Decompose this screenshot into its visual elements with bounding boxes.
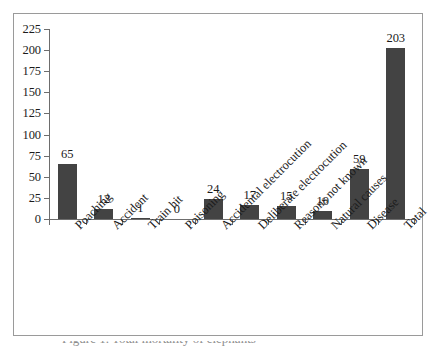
bar-value-label: 65 — [61, 148, 73, 161]
y-axis-tick-label: 175 — [23, 65, 41, 78]
y-axis-tick — [44, 177, 49, 178]
x-axis-category-label: Train hit — [146, 223, 155, 232]
y-axis-tick — [44, 135, 49, 136]
y-axis-line — [49, 29, 50, 220]
y-axis-tick — [44, 71, 49, 72]
x-axis-category-label: Poisoning — [183, 223, 192, 232]
figure-frame: 0255075100125150175200225 65121024171510… — [13, 13, 423, 336]
y-axis-tick — [44, 156, 49, 157]
x-axis-category-label: Accidental electrocution — [219, 223, 228, 232]
bar — [386, 48, 405, 219]
y-axis-tick-label: 225 — [23, 23, 41, 36]
y-axis-tick — [44, 198, 49, 199]
x-axis-category-label: Poaching — [73, 223, 82, 232]
bar-value-label: 203 — [387, 32, 405, 45]
x-axis-category-label: Deliberate electrocution — [256, 223, 265, 232]
bar — [58, 164, 77, 219]
y-axis-tick-label: 150 — [23, 86, 41, 99]
y-axis-tick-label: 0 — [35, 213, 41, 226]
y-axis-tick-label: 75 — [29, 149, 41, 162]
y-axis-tick-label: 25 — [29, 192, 41, 205]
figure-caption-clipped: Figure 1. Total mortality of elephants — [0, 341, 437, 353]
y-axis-tick-label: 200 — [23, 44, 41, 57]
x-axis-category-label: Natural causes — [329, 223, 338, 232]
y-axis-tick-label: 50 — [29, 171, 41, 184]
y-axis-tick — [44, 50, 49, 51]
y-axis-tick — [44, 29, 49, 30]
figure-caption-text: Figure 1. Total mortality of elephants — [62, 341, 256, 345]
x-axis-labels: PoachingAccidentTrain hitPoisoningAccide… — [49, 223, 414, 343]
y-axis-tick — [44, 113, 49, 114]
x-axis-category-label: Disease — [365, 223, 374, 232]
y-axis-tick-label: 125 — [23, 107, 41, 120]
x-axis-category-label: Accident — [110, 223, 119, 232]
x-axis-category-label: Reasons not known — [292, 223, 301, 232]
x-axis-category-label: Total — [402, 223, 411, 232]
y-axis-tick-label: 100 — [23, 128, 41, 141]
y-axis-tick — [44, 92, 49, 93]
